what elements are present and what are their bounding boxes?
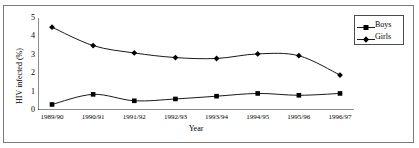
y-tick-label: 0 xyxy=(31,106,35,114)
chart-legend: Boys Girls xyxy=(354,15,404,45)
legend-label-boys: Boys xyxy=(375,20,391,29)
y-tick-label: 2 xyxy=(31,69,35,77)
y-tick-label: 3 xyxy=(31,51,35,59)
y-tick-label: 1 xyxy=(31,88,35,96)
y-axis-title: HIV infected (%) xyxy=(15,30,24,122)
x-tick-label: 1992/93 xyxy=(164,113,187,121)
x-tick-label: 1995/96 xyxy=(287,113,310,121)
x-tick-label: 1994/95 xyxy=(246,113,269,121)
y-tick-label: 4 xyxy=(31,32,35,40)
legend-marker-square-icon xyxy=(357,19,375,30)
x-tick-label: 1989/90 xyxy=(41,113,64,121)
plot-area: HIV infected (%) 012345 1989/901990/9119… xyxy=(38,18,354,110)
line-chart-svg xyxy=(38,18,354,110)
legend-label-girls: Girls xyxy=(375,32,391,41)
legend-marker-diamond-icon xyxy=(357,31,375,42)
legend-entry-boys: Boys xyxy=(357,18,401,30)
x-tick-label: 1993/94 xyxy=(205,113,228,121)
y-tick-label: 5 xyxy=(31,14,35,22)
x-tick-label: 1991/92 xyxy=(123,113,146,121)
legend-entry-girls: Girls xyxy=(357,30,401,42)
x-tick-label: 1990/91 xyxy=(82,113,105,121)
x-axis-title: Year xyxy=(38,124,354,133)
chart-figure: HIV infected (%) 012345 1989/901990/9119… xyxy=(0,0,419,148)
x-tick-label: 1996/97 xyxy=(329,113,352,121)
